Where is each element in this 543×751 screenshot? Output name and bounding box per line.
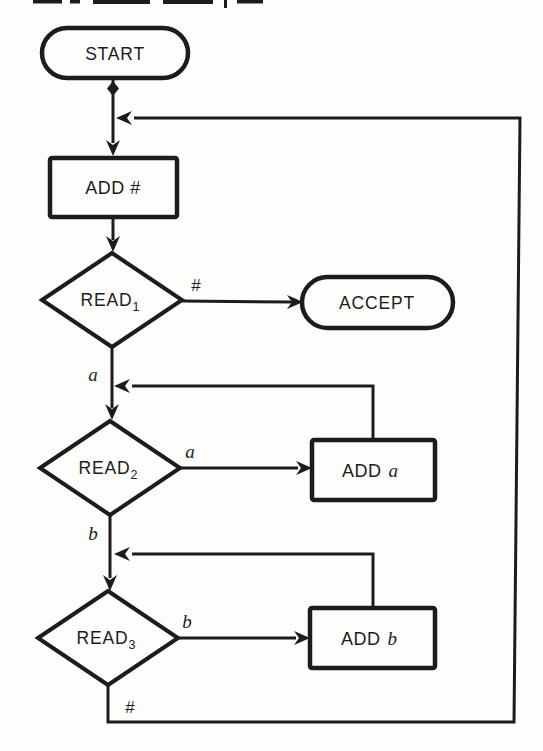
node-add-a: ADDa xyxy=(312,440,435,500)
cropped-text-fragments xyxy=(33,0,263,8)
edge-adda-loop xyxy=(132,386,373,440)
add-a-label: ADDa xyxy=(342,460,398,481)
label-b-read3-right: b xyxy=(182,611,192,632)
label-a-read1-down: a xyxy=(88,364,98,385)
add-hash-label: ADD # xyxy=(85,178,141,198)
edge-addb-loop xyxy=(132,554,373,610)
node-read3: READ3 xyxy=(38,591,178,685)
label-a-read2-right: a xyxy=(185,441,195,462)
node-start: START xyxy=(42,28,188,78)
junction-bead xyxy=(107,81,119,96)
arrowhead-loop-into-spine-top xyxy=(116,111,132,125)
arrowhead-adda-loop xyxy=(114,379,130,393)
add-b-label: ADDb xyxy=(341,628,397,649)
flowchart-canvas: # a a b b # START ADD # READ1 xyxy=(0,0,543,751)
node-accept: ACCEPT xyxy=(302,277,453,328)
arrowhead-into-addb xyxy=(294,631,310,645)
edge-read1-to-accept xyxy=(182,301,292,302)
arrowhead-addb-loop xyxy=(114,547,130,561)
label-hash-read3-loop: # xyxy=(125,698,135,717)
node-read2: READ2 xyxy=(40,421,180,515)
nodes: START ADD # READ1 ACCEPT READ2 xyxy=(38,28,453,685)
label-hash-read1-accept: # xyxy=(191,276,201,295)
start-label: START xyxy=(85,44,145,64)
node-add-hash: ADD # xyxy=(50,158,177,217)
label-b-read2-down: b xyxy=(88,523,98,544)
accept-label: ACCEPT xyxy=(339,293,415,313)
node-add-b: ADDb xyxy=(310,608,435,668)
flowchart-figure: # a a b b # START ADD # READ1 xyxy=(0,0,543,751)
arrowhead-into-adda xyxy=(296,461,312,475)
node-read1: READ1 xyxy=(42,253,182,347)
